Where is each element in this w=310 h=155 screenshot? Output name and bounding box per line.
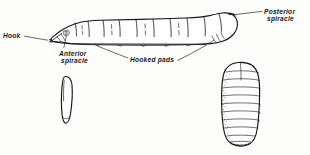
label-posterior-spiracle-line1: Posterior (264, 8, 295, 15)
leader-hook (25, 36, 49, 40)
leader-hooked-pads-right (178, 45, 206, 60)
egg-outline (61, 76, 72, 123)
label-anterior-spiracle-line2: spiracle (61, 57, 88, 65)
puparium-specimen (222, 62, 261, 146)
anatomy-diagram: Hook Anterior spiracle Hooked pads Poste… (0, 0, 310, 155)
larva-body-outline (51, 13, 237, 44)
label-anterior-spiracle-line1: Anterior (58, 50, 87, 57)
leader-hooked-pads-left (98, 46, 128, 58)
leader-posterior-spiracle (235, 11, 262, 14)
label-hook: Hook (3, 32, 21, 39)
figure-container: Hook Anterior spiracle Hooked pads Poste… (0, 0, 310, 155)
label-hooked-pads: Hooked pads (130, 56, 174, 64)
egg-specimen (61, 76, 72, 123)
larva-specimen (49, 13, 237, 47)
label-posterior-spiracle-line2: spiracle (267, 15, 294, 23)
